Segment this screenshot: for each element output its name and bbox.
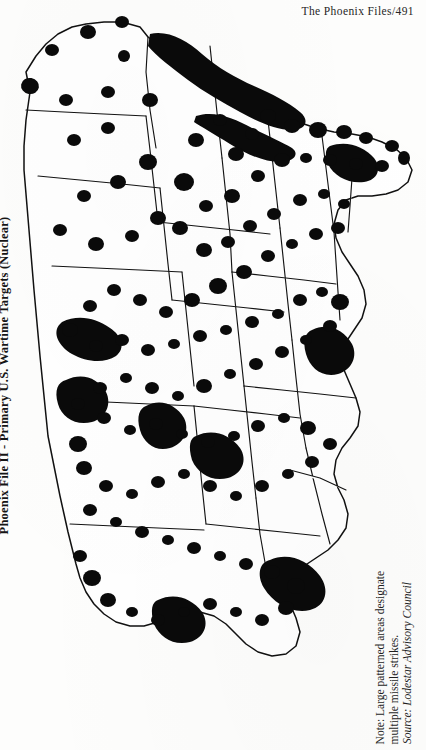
strike-marker: [150, 211, 166, 225]
strike-marker: [316, 287, 328, 297]
strike-marker: [162, 535, 174, 545]
strike-marker: [83, 570, 101, 586]
strike-marker: [359, 132, 373, 144]
strike-marker: [196, 379, 212, 393]
strike-marker: [80, 25, 96, 39]
strike-marker: [274, 153, 290, 167]
strike-marker: [249, 358, 263, 370]
strike-marker: [309, 122, 327, 138]
target-map: [0, 0, 426, 750]
strike-marker: [193, 330, 207, 342]
running-head: The Phoenix Files/491: [301, 5, 414, 17]
strike-marker: [151, 476, 165, 488]
map-svg: [0, 0, 426, 750]
strike-marker: [101, 86, 115, 98]
strike-marker: [126, 607, 138, 617]
strike-marker: [141, 344, 155, 356]
strike-marker: [126, 489, 138, 499]
strike-marker: [187, 542, 201, 554]
strike-marker: [172, 221, 188, 235]
strike-marker: [188, 133, 204, 147]
strike-marker: [62, 323, 78, 337]
strike-marker: [110, 517, 122, 527]
strike-marker: [145, 382, 159, 394]
strike-marker: [83, 504, 97, 516]
strike-marker: [239, 558, 253, 570]
strike-marker: [45, 44, 59, 56]
strike-marker: [221, 236, 235, 248]
strike-marker: [305, 456, 319, 468]
strike-marker: [77, 190, 91, 202]
strike-marker: [338, 199, 350, 209]
strike-marker: [309, 228, 323, 240]
strike-marker: [115, 334, 129, 346]
strike-marker: [184, 293, 200, 307]
strike-marker: [349, 158, 363, 170]
strike-marker: [125, 230, 139, 242]
strike-marker: [278, 413, 290, 423]
figure-title-text: Phoenix File II - Primary U.S. Wartime T…: [0, 216, 13, 534]
strike-marker: [201, 436, 215, 448]
strike-marker: [264, 565, 280, 579]
strike-marker: [230, 607, 242, 617]
strike-marker: [107, 284, 121, 296]
strike-marker: [224, 189, 240, 203]
strike-marker: [275, 346, 289, 358]
strike-marker: [124, 425, 136, 435]
strike-marker: [100, 593, 116, 607]
strike-marker: [142, 93, 158, 107]
figure-title: Phoenix File II - Primary U.S. Wartime T…: [0, 0, 17, 750]
strike-marker: [331, 294, 349, 310]
figure-note-line-1: Note: Large patterned areas designate: [373, 571, 387, 744]
strike-marker: [76, 461, 92, 475]
strike-marker: [139, 154, 157, 170]
strike-marker: [251, 170, 265, 182]
strike-marker: [53, 224, 67, 236]
strike-marker: [178, 469, 190, 479]
strike-marker: [89, 340, 103, 352]
strike-marker: [230, 491, 242, 501]
strike-marker: [282, 469, 294, 479]
strike-marker: [213, 114, 227, 126]
strike-marker: [228, 431, 240, 441]
strike-marker: [267, 208, 281, 220]
strike-marker: [398, 151, 410, 165]
strike-marker: [272, 309, 284, 319]
figure-source-text: Source: Lodestar Advisory Council: [401, 582, 413, 744]
strike-marker: [97, 412, 111, 424]
strike-marker: [71, 398, 85, 410]
strike-marker: [293, 294, 307, 306]
strike-marker: [99, 480, 113, 492]
strike-marker: [176, 429, 188, 439]
strike-marker: [243, 220, 257, 232]
strike-marker: [245, 316, 259, 328]
strike-marker: [260, 109, 276, 123]
strike-marker: [73, 550, 87, 562]
strike-marker: [93, 382, 107, 394]
strike-marker: [286, 239, 298, 249]
strike-marker: [300, 153, 312, 163]
figure-source: Source: Lodestar Advisory Council: [402, 504, 424, 744]
strike-marker: [178, 607, 190, 617]
strike-marker: [245, 128, 259, 140]
strike-marker: [101, 122, 115, 134]
strike-marker: [135, 526, 149, 538]
strike-marker: [323, 154, 337, 166]
strike-marker: [336, 125, 352, 139]
strike-marker: [214, 551, 226, 561]
strike-marker: [385, 140, 399, 152]
strike-marker: [149, 418, 163, 430]
strike-marker: [83, 300, 97, 312]
strike-marker: [224, 369, 236, 379]
strike-marker: [133, 294, 147, 306]
strike-marker: [323, 438, 337, 450]
strike-marker: [278, 601, 294, 615]
strike-marker: [151, 614, 165, 626]
strike-marker: [120, 373, 132, 383]
strike-marker: [110, 175, 126, 189]
strike-marker: [300, 335, 312, 345]
strike-marker: [199, 200, 213, 212]
strike-marker: [261, 250, 275, 262]
strike-marker: [174, 173, 194, 191]
strike-marker: [59, 94, 73, 106]
